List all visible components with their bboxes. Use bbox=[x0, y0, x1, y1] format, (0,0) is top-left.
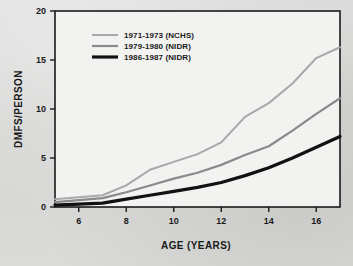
x-tick-label: 14 bbox=[264, 216, 274, 226]
y-axis: 05101520 bbox=[36, 6, 55, 212]
chart-legend: 1971-1973 (NCHS)1979-1980 (NIDR)1986-198… bbox=[92, 31, 194, 62]
y-tick-label: 15 bbox=[36, 55, 46, 65]
y-tick-label: 20 bbox=[36, 6, 46, 16]
chart-figure: 05101520 6810121416 1971-1973 (NCHS)1979… bbox=[0, 0, 353, 266]
y-tick-label: 5 bbox=[41, 153, 46, 163]
y-tick-label: 0 bbox=[41, 202, 46, 212]
x-tick-label: 12 bbox=[216, 216, 226, 226]
x-tick-label: 6 bbox=[76, 216, 81, 226]
x-tick-label: 16 bbox=[311, 216, 321, 226]
legend-label-1: 1979-1980 (NIDR) bbox=[124, 42, 191, 51]
y-axis-title: DMFS/PERSON bbox=[13, 70, 24, 148]
plot-area-background bbox=[55, 11, 340, 207]
line-chart-svg: 05101520 6810121416 1971-1973 (NCHS)1979… bbox=[0, 0, 353, 266]
legend-label-0: 1971-1973 (NCHS) bbox=[124, 31, 194, 40]
x-axis: 6810121416 bbox=[76, 207, 321, 226]
x-axis-title: AGE (YEARS) bbox=[161, 240, 231, 251]
x-tick-label: 8 bbox=[124, 216, 129, 226]
legend-label-2: 1986-1987 (NIDR) bbox=[124, 53, 191, 62]
x-tick-label: 10 bbox=[169, 216, 179, 226]
y-tick-label: 10 bbox=[36, 104, 46, 114]
